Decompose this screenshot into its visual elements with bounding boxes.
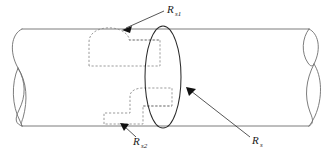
cylinder-right-break-lens-inner	[309, 64, 321, 126]
label-lower-patch: R s2	[132, 135, 148, 150]
dashed-patch-upper	[89, 28, 160, 66]
leader-cross-section-arrowhead	[186, 87, 196, 96]
cross-section-ellipse	[145, 26, 181, 128]
dashed-patch-upper-outline	[89, 28, 160, 66]
label-lower-patch-subscript: s2	[141, 142, 148, 150]
cylinder-right-break-lens	[303, 29, 314, 66]
label-upper-patch-base: R	[166, 3, 174, 15]
leader-upper-patch-arrowhead	[122, 26, 132, 33]
cylinder-left-break-lens	[18, 68, 26, 126]
label-cross-section-subscript: s	[260, 141, 263, 149]
figure-canvas: R s1 R s2 R s	[0, 0, 330, 151]
label-lower-patch-base: R	[132, 135, 140, 147]
dashed-patch-lower-outline	[104, 88, 172, 124]
label-upper-patch-subscript: s1	[175, 10, 181, 18]
dashed-patch-lower	[104, 88, 172, 124]
leader-upper-patch	[122, 11, 164, 33]
label-upper-patch: R s1	[166, 3, 181, 18]
cylinder-body	[12, 29, 320, 126]
leader-cross-section	[186, 87, 250, 137]
leader-cross-section-line	[191, 91, 250, 137]
label-cross-section: R s	[251, 134, 263, 149]
leader-upper-patch-line	[126, 11, 164, 28]
label-cross-section-base: R	[251, 134, 259, 146]
cylinder-left-break-lens-inner	[13, 68, 22, 126]
cylinder-diagram: R s1 R s2 R s	[0, 0, 330, 151]
